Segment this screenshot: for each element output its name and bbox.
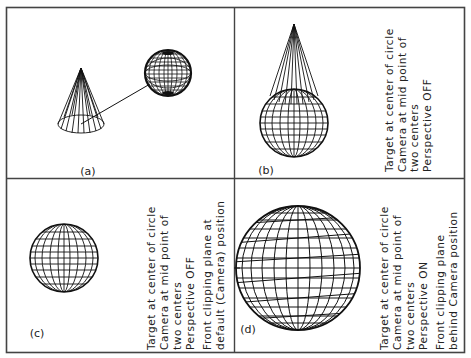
panel-a: (a) — [58, 50, 196, 178]
panel-c-caption: Target at center of circle Camera at mid… — [145, 200, 226, 351]
sphere-wireframe-icon — [28, 224, 100, 292]
caption-line: Front clipping plane at — [201, 219, 213, 350]
panel-b-label: (b) — [258, 164, 274, 177]
caption-line: Camera at mid point of — [391, 215, 403, 350]
panel-d-label: (d) — [240, 323, 256, 336]
sphere-wireframe-icon — [232, 206, 364, 330]
panel-b: (b) Target at center of circle Camera at… — [258, 24, 433, 177]
caption-line: default (Camera) position — [214, 200, 226, 350]
camera-view-figure: (a) — [0, 0, 471, 358]
panel-d: (d) Target at center of circle Camera at… — [232, 206, 459, 351]
panel-b-caption: Target at center of circle Camera at mid… — [383, 28, 433, 173]
panel-c: (c) Target at center of circle Camera at… — [28, 200, 226, 351]
caption-line: Perspective OFF — [184, 257, 196, 351]
caption-line: Camera at mid point of — [158, 215, 170, 350]
caption-line: Target at center of circle — [145, 206, 157, 351]
caption-line: behind Camera position — [447, 211, 459, 350]
caption-line: two centers — [404, 282, 416, 350]
panel-c-label: (c) — [30, 327, 45, 340]
sphere-wireframe-icon — [258, 89, 330, 157]
sphere-wireframe-icon — [140, 50, 196, 96]
caption-line: Perspective OFF — [421, 79, 433, 173]
center-connector-line — [81, 84, 150, 124]
caption-line: Front clipping plane — [434, 234, 446, 350]
caption-line: Target at center of circle — [378, 206, 390, 351]
caption-line: two centers — [171, 282, 183, 350]
panel-a-label: (a) — [80, 165, 95, 178]
caption-line: two centers — [408, 104, 420, 172]
caption-line: Camera at mid point of — [396, 37, 408, 172]
caption-line: Target at center of circle — [383, 28, 395, 173]
caption-line: Perspective ON — [417, 261, 429, 350]
cone-wireframe-icon — [58, 68, 104, 133]
panel-d-caption: Target at center of circle Camera at mid… — [378, 206, 459, 351]
